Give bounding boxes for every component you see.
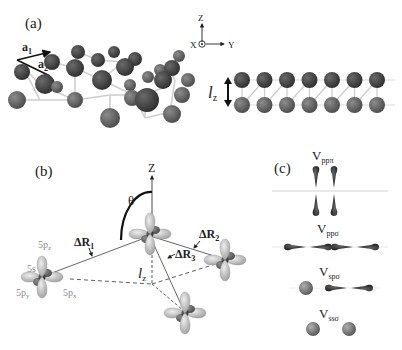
- ppsigma-orbitals: [284, 244, 379, 251]
- axes-indicator: Z X Y: [190, 13, 235, 50]
- side-atom: [369, 72, 385, 88]
- orbital-5pz-label: 5pz: [38, 239, 51, 252]
- side-atom: [324, 72, 340, 88]
- side-atom: [324, 97, 340, 113]
- sssigma-orbitals: [306, 322, 356, 336]
- spsigma-orbitals: [299, 281, 373, 295]
- dr1-label: ΔR1: [74, 235, 94, 251]
- axis-x-label: X: [190, 40, 197, 50]
- figure-canvas: (a) a1 a2: [0, 0, 402, 350]
- v-ppsigma-label: Vppσ: [317, 221, 339, 238]
- side-atom: [234, 97, 250, 113]
- orbital-atom-center: [129, 213, 171, 255]
- side-atom: [369, 97, 385, 113]
- panel-b: (b) Z θ ΔR1 ΔR2 ΔR3 lz 5pz 5s 5py 5px: [16, 161, 246, 334]
- orbital-atom-right: [204, 239, 246, 281]
- panel-a-label: (a): [25, 15, 42, 32]
- side-atom: [234, 72, 250, 88]
- side-atom: [347, 97, 363, 113]
- panel-b-label: (b): [35, 163, 53, 180]
- side-atom: [279, 72, 295, 88]
- orbital-5px-label: 5px: [63, 287, 77, 300]
- crystal-atoms: [8, 45, 195, 128]
- theta-label: θ: [128, 193, 134, 208]
- panel-c: (c) Vppπ Vppσ Vspσ Vssσ: [272, 148, 388, 336]
- axis-z-label: Z: [198, 13, 204, 23]
- side-atom: [347, 72, 363, 88]
- side-atom: [279, 97, 295, 113]
- orbital-5py-label: 5py: [16, 287, 30, 300]
- side-atom: [257, 97, 273, 113]
- b-z-label: Z: [148, 161, 155, 175]
- side-view: lz: [208, 72, 395, 113]
- lz-label-a: lz: [208, 83, 218, 103]
- panel-a: (a) a1 a2: [8, 13, 395, 128]
- side-atom: [302, 97, 318, 113]
- panel-c-label: (c): [274, 160, 291, 177]
- side-atom: [302, 72, 318, 88]
- v-sssigma-label: Vssσ: [319, 306, 340, 323]
- a1-label: a1: [22, 40, 32, 56]
- v-pppi-label: Vppπ: [312, 148, 333, 165]
- dr2-label: ΔR2: [199, 227, 219, 243]
- side-atom: [257, 72, 273, 88]
- orbital-5s-label: 5s: [27, 263, 36, 274]
- axis-y-label: Y: [228, 40, 235, 50]
- v-spsigma-label: Vspσ: [319, 264, 341, 281]
- orbital-atom-bottom: [164, 292, 206, 334]
- lz-label-b: lz: [138, 265, 146, 283]
